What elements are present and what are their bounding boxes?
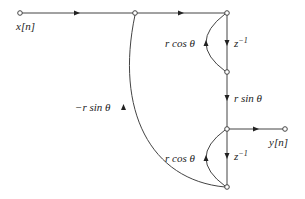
arrow-down-icon <box>225 95 230 101</box>
edge-feedback-bottom <box>206 130 225 186</box>
arrow-right-icon <box>74 11 80 16</box>
feedback-bottom-label: r cos θ <box>165 152 195 164</box>
signal-flow-graph: x[n] y[n] z−1 r cos θ r sin θ r cos θ z−… <box>0 0 305 199</box>
node-output <box>283 127 288 132</box>
input-label: x[n] <box>15 20 35 32</box>
arrow-right-icon <box>178 11 184 16</box>
node-input <box>18 11 23 16</box>
feedback-top-label: r cos θ <box>165 37 195 49</box>
edge-feedback-top <box>206 14 225 71</box>
cross-feedback-label: −r sin θ <box>75 101 111 113</box>
delay-top-label: z−1 <box>233 36 248 49</box>
node-sum-3 <box>225 127 230 132</box>
arrow-up-icon <box>121 104 126 110</box>
arrow-down-icon <box>225 153 230 159</box>
node-state-1 <box>225 70 230 75</box>
arrow-down-icon <box>225 40 230 46</box>
node-sum-1 <box>133 11 138 16</box>
cross-gain-label: r sin θ <box>234 92 263 104</box>
node-state-2 <box>225 185 230 190</box>
arrow-up-icon <box>204 40 209 46</box>
output-label: y[n] <box>268 136 288 148</box>
arrow-right-icon <box>253 127 259 132</box>
delay-bottom-label: z−1 <box>233 149 248 162</box>
node-sum-2 <box>225 11 230 16</box>
arrow-up-icon <box>204 155 209 161</box>
